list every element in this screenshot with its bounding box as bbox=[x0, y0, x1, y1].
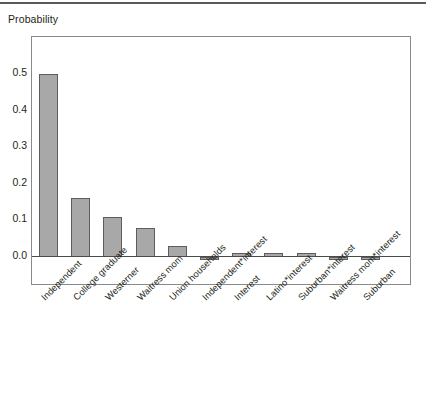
y-tick-label: 0.3 bbox=[1, 139, 27, 151]
y-axis-label: Probability bbox=[8, 13, 58, 25]
bar bbox=[39, 74, 58, 257]
y-tick-label: 0.1 bbox=[1, 212, 27, 224]
bar bbox=[136, 228, 155, 257]
y-tick-label: 0.5 bbox=[1, 66, 27, 78]
zero-baseline bbox=[32, 256, 410, 257]
top-divider-rule bbox=[0, 2, 426, 4]
y-tick-label: 0.4 bbox=[1, 103, 27, 115]
x-axis-label-group: IndependentCollege graduateWesternerWait… bbox=[0, 285, 426, 398]
y-tick-label: 0.2 bbox=[1, 176, 27, 188]
bar bbox=[71, 198, 90, 257]
y-tick-label: 0.0 bbox=[1, 249, 27, 261]
